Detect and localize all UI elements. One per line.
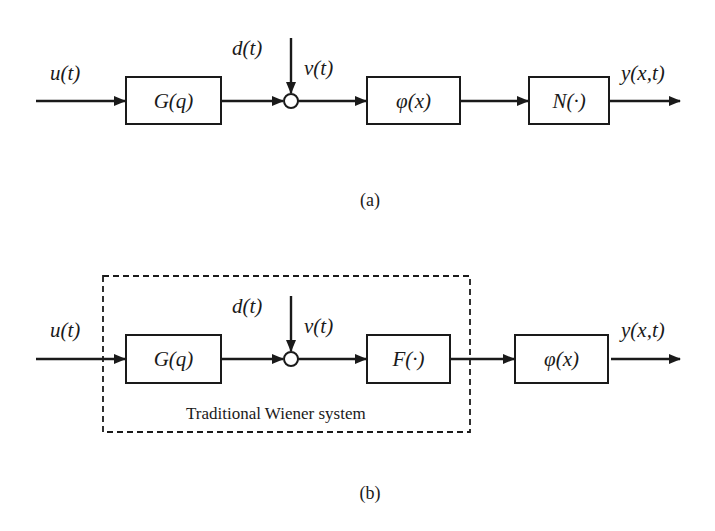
summing-junction-icon [284,352,298,366]
block-g: G(q) [126,77,221,124]
intermediate-label-v: v(t) [304,314,333,338]
block-n-label: N(·) [551,89,585,113]
caption-a: (a) [360,190,380,211]
input-label-u: u(t) [50,61,80,85]
block-f: F(·) [367,335,450,383]
block-g-label: G(q) [154,347,194,371]
summing-junction-icon [284,94,298,108]
wiener-system-label: Traditional Wiener system [186,404,366,423]
output-label-y: y(x,t) [619,61,665,85]
intermediate-label-v: v(t) [304,56,333,80]
diagram-a: u(t) G(q) d(t) v(t) φ(x) N(·) y(x,t) (a) [36,36,680,211]
block-g-label: G(q) [154,89,194,113]
block-phi: φ(x) [367,77,460,124]
block-phi: φ(x) [515,335,608,383]
caption-b: (b) [360,483,381,504]
output-label-y: y(x,t) [619,318,665,342]
disturbance-label-d: d(t) [232,294,262,318]
diagram-b: Traditional Wiener system u(t) G(q) d(t)… [36,276,680,504]
block-n: N(·) [529,77,609,124]
disturbance-label-d: d(t) [232,36,262,60]
block-phi-label: φ(x) [544,347,579,371]
block-g: G(q) [126,335,221,383]
block-f-label: F(·) [391,347,424,371]
block-diagram-canvas: u(t) G(q) d(t) v(t) φ(x) N(·) y(x,t) (a) [0,0,715,531]
input-label-u: u(t) [50,318,80,342]
block-phi-label: φ(x) [396,89,431,113]
